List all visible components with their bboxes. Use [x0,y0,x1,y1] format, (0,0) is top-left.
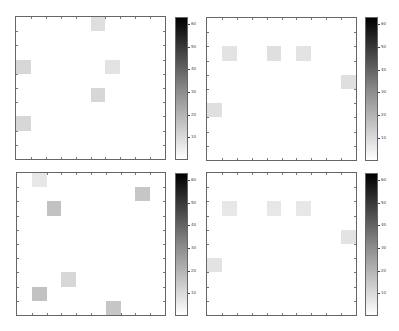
y-tick [163,131,165,132]
x-tick [296,173,297,175]
y-tick [207,301,209,302]
colorbar-tick-label: 50 [191,45,196,49]
x-tick [267,313,268,315]
y-tick [354,258,356,259]
x-tick [46,157,47,159]
y-tick [163,74,165,75]
heatmap-cell [296,201,311,215]
y-tick [207,146,209,147]
x-tick [311,18,312,20]
colorbar-tick-label: 20 [191,113,196,117]
x-tick [267,158,268,160]
x-tick [105,157,106,159]
colorbar-tick-label: 60 [191,22,196,26]
x-tick [252,173,253,175]
x-tick [106,173,107,175]
y-tick [207,75,209,76]
heatmap-cell [135,187,150,201]
colorbar-tick-label: 30 [381,246,386,250]
y-tick [207,46,209,47]
y-tick [354,132,356,133]
colorbar-tick-label: 30 [191,90,196,94]
y-tick [354,301,356,302]
y-tick [17,244,19,245]
y-tick [163,216,165,217]
y-tick [163,31,165,32]
x-tick [91,173,92,175]
y-tick [163,272,165,273]
x-tick [121,313,122,315]
y-tick [207,132,209,133]
colorbar-tick-label: 50 [381,45,386,49]
y-tick [354,146,356,147]
x-tick [150,173,151,175]
colorbar-tick-label: 60 [381,22,386,26]
x-tick [311,313,312,315]
heatmap-cell [222,46,237,60]
y-tick [207,244,209,245]
y-tick [207,216,209,217]
y-tick [16,31,18,32]
colorbar [365,17,378,161]
colorbar-tick-label: 10 [381,291,386,295]
colorbar-tick-label: 10 [381,136,386,140]
x-tick [267,173,268,175]
y-tick [163,258,165,259]
y-tick [354,244,356,245]
colorbar-tick-label: 30 [381,90,386,94]
y-tick [163,145,165,146]
x-tick [135,173,136,175]
y-tick [17,301,19,302]
heatmap-cell [267,201,282,215]
y-tick [17,216,19,217]
x-tick [135,313,136,315]
y-tick [163,244,165,245]
heatmap-axes [16,172,166,316]
y-tick [163,287,165,288]
x-tick [47,173,48,175]
x-tick [237,18,238,20]
y-tick [16,131,18,132]
x-tick [326,173,327,175]
x-tick [237,313,238,315]
y-tick [207,201,209,202]
x-tick [105,17,106,19]
y-tick [207,89,209,90]
x-tick [47,313,48,315]
y-tick [207,230,209,231]
x-tick [311,158,312,160]
heatmap-cell [207,103,222,117]
heatmap-cell [106,301,121,315]
x-tick [326,313,327,315]
colorbar [175,17,188,160]
x-tick [150,313,151,315]
x-tick [76,313,77,315]
y-tick [354,32,356,33]
colorbar-tick-label: 60 [381,178,386,182]
colorbar-tick-label: 40 [381,223,386,227]
colorbar-tick-label: 20 [191,269,196,273]
y-tick [17,258,19,259]
y-tick [207,287,209,288]
y-tick [163,201,165,202]
y-tick [354,117,356,118]
y-tick [17,287,19,288]
x-tick [267,18,268,20]
heatmap-cell [341,75,356,89]
x-tick [32,313,33,315]
heatmap-cell [91,88,106,102]
y-tick [17,230,19,231]
y-tick [163,45,165,46]
heatmap-cell [267,46,282,60]
x-tick [341,158,342,160]
x-tick [76,17,77,19]
y-tick [163,102,165,103]
x-tick [61,173,62,175]
x-tick [222,173,223,175]
x-tick [282,313,283,315]
y-tick [163,187,165,188]
x-tick [135,17,136,19]
y-tick [354,201,356,202]
colorbar-tick-label: 30 [191,246,196,250]
x-tick [282,158,283,160]
